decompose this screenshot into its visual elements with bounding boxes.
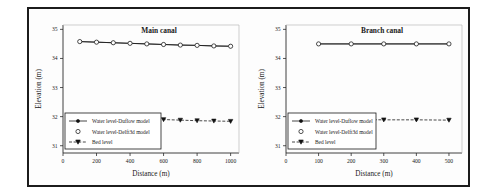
x-tick-label: 100: [314, 158, 323, 164]
y-axis-title: Elevation (m): [35, 69, 43, 109]
y-tick-label: 34: [52, 55, 58, 61]
legend-marker-filled-circle: [76, 119, 79, 122]
x-tick-label: 800: [193, 158, 202, 164]
x-tick-label: 1000: [225, 158, 236, 164]
legend-label-1: Water level-Delft3d model: [315, 129, 373, 135]
y-tick-label: 35: [275, 26, 281, 32]
panel-title: Main canal: [141, 26, 177, 35]
data-point-open-circle: [145, 42, 149, 46]
y-tick-label: 34: [275, 55, 281, 61]
x-tick-label: 600: [159, 158, 168, 164]
y-tick-label: 33: [275, 85, 281, 91]
x-axis-title: Distance (m): [355, 170, 393, 178]
y-tick-label: 31: [52, 143, 58, 149]
branch-canal-plot: 01002003004005003132333435Distance (m)El…: [250, 7, 472, 187]
chart-panel-main-canal: 020040060080010003132333435Distance (m)E…: [27, 7, 249, 187]
x-tick-label: 500: [445, 158, 454, 164]
data-point-open-circle: [229, 44, 233, 48]
data-point-open-circle: [316, 42, 320, 46]
x-axis-title: Distance (m): [132, 170, 170, 178]
y-tick-label: 32: [275, 114, 281, 120]
x-tick-label: 300: [380, 158, 389, 164]
legend-label-1: Water level-Delft3d model: [92, 129, 150, 135]
data-point-open-circle: [78, 39, 82, 43]
legend-marker-filled-circle: [299, 119, 302, 122]
data-point-open-circle: [178, 43, 182, 47]
data-point-open-circle: [128, 41, 132, 45]
y-tick-label: 31: [275, 143, 281, 149]
data-point-open-circle: [94, 40, 98, 44]
y-tick-label: 35: [52, 26, 58, 32]
data-point-open-circle: [349, 42, 353, 46]
legend-marker-open-circle: [76, 129, 80, 133]
data-point-open-circle: [195, 43, 199, 47]
chart-panel-branch-canal: 01002003004005003132333435Distance (m)El…: [250, 7, 472, 187]
legend-label-2: Bed level: [92, 139, 113, 145]
x-tick-label: 400: [126, 158, 135, 164]
data-point-open-circle: [212, 44, 216, 48]
data-point-open-circle: [447, 42, 451, 46]
data-point-open-circle: [111, 41, 115, 45]
x-tick-label: 0: [285, 158, 288, 164]
main-canal-plot: 020040060080010003132333435Distance (m)E…: [27, 7, 249, 187]
data-point-open-circle: [161, 42, 165, 46]
y-tick-label: 32: [52, 114, 58, 120]
x-tick-label: 200: [92, 158, 101, 164]
data-point-open-circle: [382, 42, 386, 46]
x-tick-label: 200: [347, 158, 356, 164]
figure-container: 020040060080010003132333435Distance (m)E…: [0, 0, 495, 193]
y-tick-label: 33: [52, 85, 58, 91]
series-line-1: [80, 42, 231, 47]
legend-label-2: Bed level: [315, 139, 336, 145]
x-tick-label: 0: [62, 158, 65, 164]
legend-label-0: Water level-Duflow model: [92, 118, 150, 124]
data-point-open-circle: [414, 42, 418, 46]
y-axis-title: Elevation (m): [258, 69, 266, 109]
x-tick-label: 400: [412, 158, 421, 164]
legend-marker-open-circle: [299, 129, 303, 133]
legend-label-0: Water level-Duflow model: [315, 118, 373, 124]
panel-title: Branch canal: [361, 26, 403, 35]
